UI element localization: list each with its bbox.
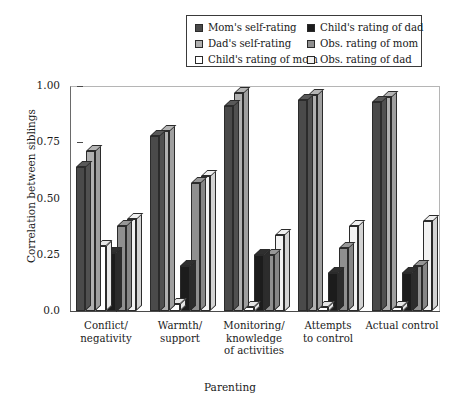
bar xyxy=(150,130,160,312)
x-axis-group-label-line: of activities xyxy=(204,345,304,358)
bar-side-face xyxy=(106,240,112,311)
bar-side-face xyxy=(348,242,354,311)
bar-side-face xyxy=(233,101,239,311)
bar-front-face xyxy=(372,102,382,311)
bar-chart: Mom's self-rating Dad's self-rating Chil… xyxy=(0,0,460,416)
legend-column-left: Mom's self-rating Dad's self-rating Chil… xyxy=(195,20,318,68)
bar-side-face xyxy=(422,260,428,311)
legend-label: Dad's self-rating xyxy=(208,38,291,49)
bar-side-face xyxy=(136,213,142,311)
bar-side-face xyxy=(95,146,101,311)
bar-side-face xyxy=(307,94,313,311)
bar xyxy=(76,161,86,311)
y-axis-tick-mark xyxy=(77,86,83,87)
legend-swatch-icon xyxy=(307,40,315,48)
y-axis-tick-label: 1.00 xyxy=(14,79,60,91)
legend-item: Mom's self-rating xyxy=(195,20,318,35)
legend-swatch-icon xyxy=(195,24,203,32)
bar-side-face xyxy=(391,92,397,311)
legend-item: Obs. rating of dad xyxy=(307,52,423,67)
legend-item: Obs. rating of mom xyxy=(307,36,423,51)
bar-side-face xyxy=(116,247,122,311)
bar-side-face xyxy=(210,170,216,311)
bar-side-face xyxy=(85,161,91,311)
bar-side-face xyxy=(243,87,249,311)
bar-side-face xyxy=(432,215,438,311)
legend-label: Child's rating of mom xyxy=(208,54,318,65)
y-axis-ticks: 0.00.250.500.751.00 xyxy=(14,0,60,416)
bar-front-face xyxy=(224,106,234,311)
y-axis-tick-label: 0.25 xyxy=(14,248,60,260)
bar-front-face xyxy=(150,136,160,312)
legend-swatch-icon xyxy=(307,24,315,32)
x-axis-group-label-line: to control xyxy=(278,333,378,346)
chart-legend: Mom's self-rating Dad's self-rating Chil… xyxy=(186,15,422,67)
y-axis-tick-mark xyxy=(77,311,83,312)
y-axis-tick-mark xyxy=(77,142,83,143)
bar-side-face xyxy=(200,177,206,311)
bar-side-face xyxy=(190,260,196,311)
legend-swatch-icon xyxy=(307,56,315,64)
bar-side-face xyxy=(274,249,280,311)
bar xyxy=(298,94,308,312)
y-axis-tick-label: 0.50 xyxy=(14,192,60,204)
legend-item: Dad's self-rating xyxy=(195,36,318,51)
bar-side-face xyxy=(412,267,418,311)
x-axis-group-label-line: Actual control xyxy=(352,320,452,333)
bar-front-face xyxy=(298,100,308,312)
legend-label: Obs. rating of mom xyxy=(320,38,418,49)
bar-side-face xyxy=(264,249,270,311)
bar-side-face xyxy=(358,220,364,311)
y-axis-tick-label: 0.75 xyxy=(14,135,60,147)
bar-side-face xyxy=(317,89,323,311)
legend-label: Mom's self-rating xyxy=(208,22,297,33)
bar-side-face xyxy=(284,229,290,311)
x-axis-group-label: Actual control xyxy=(352,320,452,333)
bar-side-face xyxy=(159,130,165,311)
legend-item: Child's rating of dad xyxy=(307,20,423,35)
legend-column-right: Child's rating of dad Obs. rating of mom… xyxy=(307,20,423,68)
x-axis-label: Parenting xyxy=(0,381,460,393)
legend-label: Obs. rating of dad xyxy=(320,54,412,65)
y-axis-tick-label: 0.0 xyxy=(14,304,60,316)
legend-item: Child's rating of mom xyxy=(195,52,318,67)
bar-front-face xyxy=(76,167,86,311)
y-axis-label: Correlation between siblings xyxy=(25,81,37,291)
legend-swatch-icon xyxy=(195,56,203,64)
bar-side-face xyxy=(169,125,175,311)
bar-side-face xyxy=(126,220,132,311)
bar-side-face xyxy=(381,96,387,311)
bar-side-face xyxy=(338,267,344,311)
bar xyxy=(224,100,234,311)
legend-label: Child's rating of dad xyxy=(320,22,423,33)
bar xyxy=(372,96,382,311)
legend-swatch-icon xyxy=(195,40,203,48)
